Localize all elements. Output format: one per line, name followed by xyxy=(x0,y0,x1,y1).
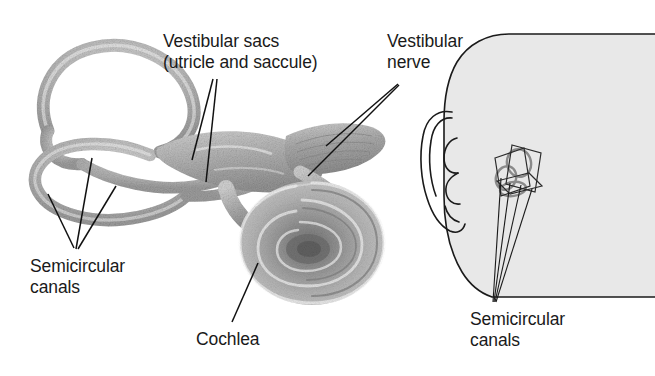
leader-canals-left-1 xyxy=(48,194,74,248)
label-semicircular-canals-left: Semicircularcanals xyxy=(30,256,125,298)
label-vestibular-sacs-line1: Vestibular sacs xyxy=(163,31,279,51)
label-semicircular-canals-left-line1: Semicircular xyxy=(30,256,125,276)
label-semicircular-canals-right-line1: Semicircular xyxy=(470,309,565,329)
label-semicircular-canals-right: Semicircularcanals xyxy=(470,309,565,351)
label-vestibular-nerve-line1: Vestibular xyxy=(387,31,463,51)
inner-ear-diagram: Vestibular sacs(utricle and saccule) Ves… xyxy=(0,0,655,376)
cochlea-spiral xyxy=(240,181,384,305)
label-vestibular-sacs: Vestibular sacs(utricle and saccule) xyxy=(163,31,318,73)
head-fill xyxy=(444,34,655,297)
label-cochlea-line1: Cochlea xyxy=(196,329,260,349)
head-inset xyxy=(421,34,655,302)
leader-cochlea xyxy=(232,263,258,322)
label-semicircular-canals-left-line2: canals xyxy=(30,277,80,297)
label-semicircular-canals-right-line2: canals xyxy=(470,330,520,350)
label-vestibular-sacs-line2: (utricle and saccule) xyxy=(163,52,318,72)
label-vestibular-nerve: Vestibularnerve xyxy=(387,31,463,73)
label-cochlea: Cochlea xyxy=(196,329,260,350)
label-vestibular-nerve-line2: nerve xyxy=(387,52,430,72)
